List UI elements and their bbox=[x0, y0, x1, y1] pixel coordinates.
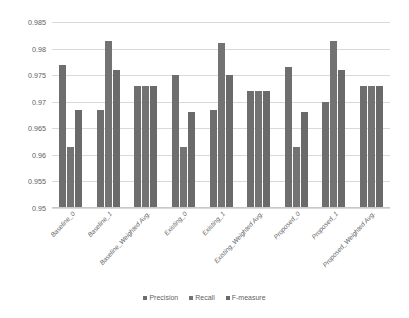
x-tick-label: Existing_1 bbox=[201, 210, 227, 237]
x-tick-label: Proposed_1 bbox=[310, 210, 339, 240]
legend-swatch-icon bbox=[143, 296, 147, 300]
chart-legend: PrecisionRecallF-measure bbox=[0, 294, 409, 301]
x-tick-label: Baseline_0 bbox=[49, 210, 76, 238]
y-tick-label: 0.975 bbox=[2, 71, 46, 80]
gridline bbox=[52, 208, 390, 209]
legend-label: Recall bbox=[195, 294, 214, 301]
legend-label: F-measure bbox=[232, 294, 266, 301]
y-axis-ticks: 0.950.9550.96)0.9650.970.9750.980.985 bbox=[52, 22, 390, 208]
y-tick-label: 0.97 bbox=[2, 97, 46, 106]
legend-swatch-icon bbox=[226, 296, 230, 300]
y-tick-label: 0.985 bbox=[2, 18, 46, 27]
x-axis-labels: Baseline_0Baseline_1Baseline_Weighted Av… bbox=[52, 210, 390, 286]
plot-area: 0.950.9550.96)0.9650.970.9750.980.985 bbox=[52, 22, 390, 208]
y-tick-label: 0.955 bbox=[2, 177, 46, 186]
x-tick-label: Proposed_0 bbox=[272, 210, 301, 240]
y-tick-label: 0.98 bbox=[2, 44, 46, 53]
x-tick-label: Baseline_1 bbox=[86, 210, 113, 238]
x-tick-label: Existing_0 bbox=[163, 210, 189, 237]
legend-item[interactable]: F-measure bbox=[226, 294, 266, 301]
y-tick-label: 0.96 bbox=[2, 150, 46, 159]
y-tick-label: 0.95 bbox=[2, 204, 46, 213]
legend-item[interactable]: Recall bbox=[189, 294, 214, 301]
legend-swatch-icon bbox=[189, 296, 193, 300]
legend-label: Precision bbox=[149, 294, 178, 301]
y-tick-label: 0.965 bbox=[2, 124, 46, 133]
legend-item[interactable]: Precision bbox=[143, 294, 178, 301]
bar-chart: 0.950.9550.96)0.9650.970.9750.980.985 Ba… bbox=[0, 0, 409, 318]
